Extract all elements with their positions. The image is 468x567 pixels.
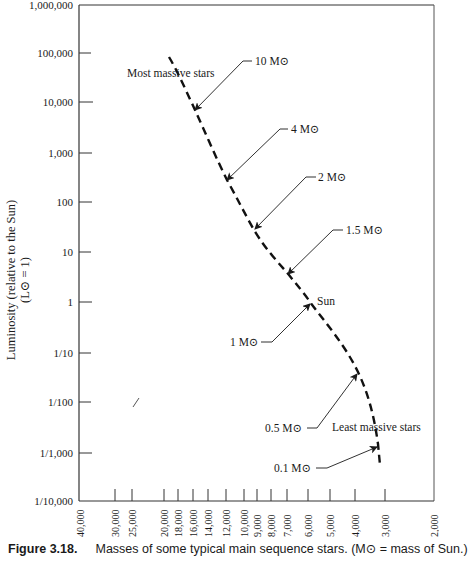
label-most-massive-stars: Most massive stars <box>127 67 215 79</box>
label-1-msun: 1 M⊙ <box>230 336 259 348</box>
x-tick-label: 9,000 <box>252 515 263 538</box>
y-tick-label: 100 <box>57 196 74 208</box>
y-tick-label: 1/100 <box>48 396 74 408</box>
figure-caption: Figure 3.18.Masses of some typical main … <box>8 541 438 556</box>
y-tick-label: 10 <box>62 246 74 258</box>
y-tick-label: 100,000 <box>37 47 73 59</box>
y-tick-label: 1,000 <box>48 147 73 159</box>
x-tick-label: 40,000 <box>75 510 86 538</box>
label-0-5-msun: 0.5 M⊙ <box>265 422 302 434</box>
y-tick-label: 10,000 <box>43 96 74 108</box>
y-tick-label: 1 <box>68 296 74 308</box>
y-tick-label: 1,000,000 <box>29 0 74 11</box>
label-least-massive-stars: Least massive stars <box>332 421 421 433</box>
x-tick-label: 5,000 <box>325 515 336 538</box>
label-10-msun: 10 M⊙ <box>255 55 289 67</box>
y-axis-title: Luminosity (relative to the Sun) (L⊙ = 1… <box>4 200 32 360</box>
label-1-5-msun: 1.5 M⊙ <box>346 224 383 236</box>
figure-caption-text: Masses of some typical main sequence sta… <box>95 542 467 556</box>
x-tick-label: 3,000 <box>380 515 391 538</box>
x-tick-label: 10,000 <box>239 510 250 538</box>
arrow-0-1-msun <box>316 447 377 468</box>
figure-number: Figure 3.18. <box>8 542 77 556</box>
y-tick-label: 1/10,000 <box>34 495 73 507</box>
x-tick-label: 2,000 <box>429 515 439 538</box>
label-2-msun: 2 M⊙ <box>318 171 347 183</box>
arrow-0-5-msun <box>307 374 357 428</box>
label-4-msun: 4 M⊙ <box>291 123 320 135</box>
x-tick-label: 18,000 <box>173 510 184 538</box>
annotations: Most massive stars 10 M⊙ 4 M⊙ 2 M⊙ 1.5 M… <box>127 55 421 474</box>
y-axis-ticks <box>79 53 93 453</box>
x-tick-label: 7,000 <box>282 515 293 538</box>
arrow-1-5-msun <box>288 230 343 274</box>
y-axis-title-text: Luminosity (relative to the Sun) <box>4 200 18 360</box>
y-axis-subtitle-text: (L⊙ = 1) <box>18 257 32 303</box>
x-axis-labels: 40,000 30,000 25,000 20,000 18,000 16,00… <box>75 510 439 538</box>
x-tick-label: 8,000 <box>266 515 277 538</box>
y-tick-label: 1/10 <box>53 347 73 359</box>
y-axis-labels: 1,000,000 100,000 10,000 1,000 100 10 1 … <box>29 0 74 507</box>
x-tick-label: 30,000 <box>110 510 121 538</box>
arrow-2-msun <box>255 177 316 229</box>
x-axis-ticks <box>115 489 385 501</box>
x-tick-label: 12,000 <box>221 510 232 538</box>
x-tick-label: 14,000 <box>203 510 214 538</box>
hr-diagram-chart: 1,000,000 100,000 10,000 1,000 100 10 1 … <box>0 0 439 540</box>
label-0-1-msun: 0.1 M⊙ <box>274 462 311 474</box>
x-tick-label: 4,000 <box>350 515 361 538</box>
main-sequence-curve <box>169 57 380 465</box>
x-tick-label: 20,000 <box>159 510 170 538</box>
x-tick-label: 16,000 <box>188 510 199 538</box>
y-tick-label: 1/1,000 <box>40 447 74 459</box>
arrow-1-msun <box>261 304 310 342</box>
x-tick-label: 25,000 <box>127 510 138 538</box>
arrow-4-msun <box>227 129 288 180</box>
stray-mark <box>133 398 139 407</box>
label-sun: Sun <box>317 295 335 307</box>
x-tick-label: 6,000 <box>303 515 314 538</box>
